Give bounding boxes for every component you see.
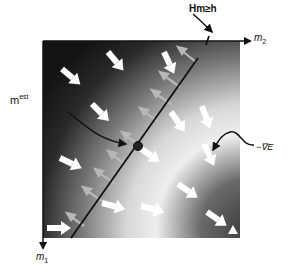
m1-axis-label: m1 — [36, 251, 48, 264]
estimate-superscript: est — [19, 93, 28, 100]
estimate-label: mest — [10, 93, 29, 106]
gradient-label: −∇E — [256, 142, 273, 152]
diagram-canvas — [0, 0, 288, 272]
m1-axis-arrow-icon — [39, 242, 47, 250]
estimate-point — [134, 142, 143, 151]
estimate-symbol: m — [10, 94, 19, 106]
m2-axis-arrow-icon — [244, 37, 252, 45]
constraint-label: Hm≥h — [189, 3, 217, 14]
m1-axis-subscript: 1 — [44, 257, 48, 264]
m2-axis-subscript: 2 — [262, 38, 266, 45]
m2-axis-label: m2 — [254, 32, 266, 45]
constraint-pointer — [193, 14, 212, 32]
